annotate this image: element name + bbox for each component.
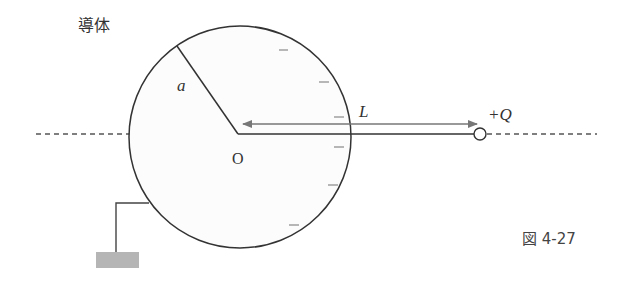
charge-label: +Q	[488, 106, 512, 123]
point-charge	[474, 128, 486, 140]
figure-caption: 図 4-27	[522, 232, 576, 247]
center-label: O	[232, 151, 244, 167]
ground-wire	[116, 203, 149, 252]
conductor-label: 導体	[78, 18, 110, 34]
ground-block	[96, 252, 139, 268]
distance-label: L	[359, 103, 368, 120]
radius-label: a	[177, 77, 186, 94]
conductor-sphere	[129, 26, 351, 248]
